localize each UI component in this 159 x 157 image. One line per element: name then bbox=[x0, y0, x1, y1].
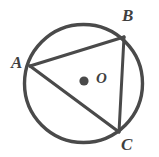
chord-bc-line bbox=[119, 37, 124, 132]
vertex-label-a: A bbox=[11, 54, 22, 71]
center-point-dot bbox=[79, 76, 88, 85]
circle-triangle-diagram bbox=[0, 0, 159, 157]
center-label-o: O bbox=[96, 71, 107, 86]
geometry-figure: A B C O bbox=[0, 0, 159, 157]
vertex-label-c: C bbox=[121, 136, 132, 153]
vertex-label-b: B bbox=[122, 7, 133, 24]
